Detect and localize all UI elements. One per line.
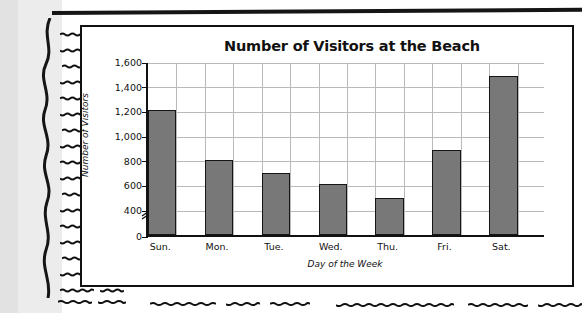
gridline-vertical [290,63,291,235]
bar-wed [319,184,347,235]
squiggle-line [538,295,582,303]
bar-mon [205,160,233,235]
bar-fri [432,150,460,235]
y-axis-tick-label: 1,600 [98,58,142,68]
squiggle-line [468,295,528,303]
gridline-horizontal [148,112,544,113]
page-torn-edge [0,0,18,313]
squiggle-line [58,292,92,300]
plot-area [146,63,544,237]
x-axis-tick-label: Tue. [254,241,294,252]
y-axis-tick-label: 1,200 [98,107,142,117]
y-axis-tick [142,87,148,88]
bar-thu [375,198,403,235]
page-bottom-squiggles [58,292,582,313]
y-axis-tick [142,63,148,64]
page-top-rule [52,8,582,15]
gridline-horizontal [148,87,544,88]
bar-tue [262,173,290,235]
x-axis-tick-labels: Sun.Mon.Tue.Wed.Thu.Fri.Sat. [146,241,544,255]
x-axis-tick-label: Thu. [368,241,408,252]
gridline-vertical [347,63,348,235]
squiggle-line [336,295,454,303]
y-axis-tick-label: 400 [98,206,142,216]
squiggle-line [270,294,310,302]
y-axis-tick-labels: 04006008001,0001,2001,4001,600 [90,63,142,237]
y-axis-title: Number of Visitors [80,93,90,177]
gridline-horizontal [148,137,544,138]
x-axis-tick-label: Wed. [311,241,351,252]
squiggle-line [226,294,260,302]
gridline-vertical [461,63,462,235]
y-axis-tick-label: 800 [98,157,142,167]
textbook-page: Number of Visitors at the Beach Number o… [0,0,582,313]
gridline-vertical [518,63,519,235]
bar-sat [489,76,517,235]
bar-sun [148,110,176,235]
y-axis-tick-label: 0 [98,232,142,242]
gridline-horizontal [148,63,544,64]
x-axis-title: Day of the Week [146,259,544,269]
x-axis-tick-label: Fri. [425,241,465,252]
torn-edge-outline [36,18,60,298]
y-axis-tick-label: 1,000 [98,132,142,142]
chart-container: Number of Visitors at the Beach Number o… [80,25,574,287]
gridline-vertical [404,63,405,235]
chart-title: Number of Visitors at the Beach [142,38,562,54]
x-axis-tick-label: Mon. [197,241,237,252]
squiggle-line [98,292,126,300]
x-axis-tick-label: Sun. [140,241,180,252]
squiggle-line [150,294,216,302]
y-axis-tick [142,237,148,238]
x-axis-tick-label: Sat. [481,241,521,252]
y-axis-tick-label: 1,400 [98,83,142,93]
y-axis-tick-label: 600 [98,181,142,191]
